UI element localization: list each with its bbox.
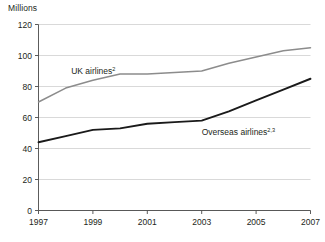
x-tick-label-2005: 2005 — [247, 217, 266, 227]
series-label-superscript: 2,3 — [267, 127, 275, 133]
series-label-uk-airlines: UK airlines2 — [71, 66, 115, 76]
x-tick-label-1997: 1997 — [29, 217, 48, 227]
x-axis-tick-labels: 199719992001200320052007 — [29, 217, 320, 227]
x-tick-label-2001: 2001 — [138, 217, 157, 227]
y-tick-label-40: 40 — [23, 144, 33, 154]
series-label-name: Overseas airlines — [202, 127, 268, 137]
series-line-overseas-airlines — [39, 79, 311, 143]
y-tick-label-0: 0 — [27, 206, 32, 216]
y-tick-label-100: 100 — [18, 51, 32, 61]
series-label-overseas-airlines: Overseas airlines2,3 — [202, 127, 275, 137]
x-tick-label-2007: 2007 — [301, 217, 320, 227]
chart-plot-area: 020406080100120 199719992001200320052007… — [0, 0, 325, 242]
series-label-superscript: 2 — [112, 66, 115, 72]
y-tick-label-80: 80 — [23, 82, 33, 92]
gridlines-group — [39, 25, 311, 211]
x-tick-label-2003: 2003 — [192, 217, 211, 227]
x-tick-label-1999: 1999 — [83, 217, 102, 227]
y-tick-label-60: 60 — [23, 113, 33, 123]
series-label-name: UK airlines — [71, 66, 112, 76]
y-axis-tick-labels: 020406080100120 — [18, 20, 32, 216]
y-tick-label-120: 120 — [18, 20, 32, 30]
axis-ticks-group — [35, 25, 311, 215]
y-tick-label-20: 20 — [23, 175, 33, 185]
line-chart-figure: Millions 020406080100120 199719992001200… — [0, 0, 325, 242]
series-inline-labels: UK airlines2Overseas airlines2,3 — [71, 66, 275, 136]
